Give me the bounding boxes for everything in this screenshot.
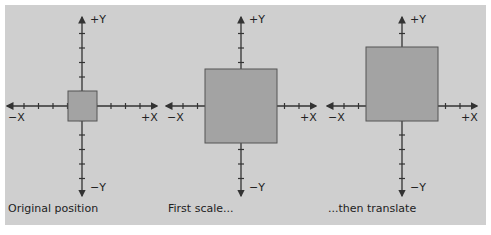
- square-shape: [205, 69, 277, 143]
- coordinate-panel-1: +Y−Y−X+X: [7, 13, 158, 196]
- neg-y-label: −Y: [90, 181, 106, 194]
- caption-original-position: Original position: [8, 202, 98, 215]
- transform-diagram: +Y−Y−X+X+Y−Y−X+X+Y−Y−X+X: [0, 0, 491, 235]
- neg-x-label: −X: [167, 111, 184, 124]
- pos-y-label: +Y: [90, 13, 106, 26]
- pos-y-label: +Y: [410, 13, 426, 26]
- coordinate-panel-3: +Y−Y−X+X: [327, 13, 478, 196]
- neg-y-label: −Y: [410, 181, 426, 194]
- caption-first-scale: First scale...: [168, 202, 233, 215]
- caption-then-translate: ...then translate: [328, 202, 416, 215]
- square-shape: [366, 47, 438, 121]
- neg-x-label: −X: [328, 111, 345, 124]
- neg-y-label: −Y: [249, 181, 265, 194]
- neg-x-label: −X: [8, 111, 25, 124]
- pos-x-label: +X: [141, 111, 158, 124]
- square-shape: [68, 91, 97, 121]
- pos-y-label: +Y: [249, 13, 265, 26]
- coordinate-panel-2: +Y−Y−X+X: [166, 13, 317, 196]
- pos-x-label: +X: [461, 111, 478, 124]
- pos-x-label: +X: [300, 111, 317, 124]
